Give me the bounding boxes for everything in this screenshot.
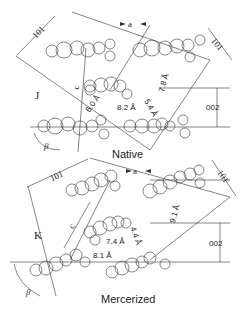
plane-002-label-mercerized: 002 [209,240,222,248]
distance-2-mercerized: 8.1 Å [93,252,112,260]
panel-letter-native: J [35,90,39,101]
plane-002-label-native: 002 [206,104,219,112]
axis-a-label-mercerized: a [133,167,137,176]
angle-beta-mercerized: β [26,288,30,297]
distance-1-mercerized: 7.4 Å [106,238,125,246]
distance-2-native: 8.2 Å [117,104,136,112]
axis-c-label-native: c [72,86,81,90]
angle-beta-native: β [44,142,48,151]
caption-native: Native [112,149,143,160]
axis-a-label-native: a [128,20,132,29]
caption-mercerized: Mercerized [101,294,155,305]
panel-letter-mercerized: K [34,230,42,241]
